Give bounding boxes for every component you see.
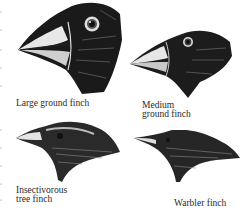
insectivorous-tree-finch-label-line2: tree finch xyxy=(16,194,52,204)
insectivorous-tree-finch-illustration xyxy=(12,118,122,184)
warbler-finch-label: Warbler finch xyxy=(174,198,226,208)
medium-ground-finch-label-line2: ground finch xyxy=(142,109,191,119)
large-ground-finch-label: Large ground finch xyxy=(16,98,89,108)
medium-ground-finch-illustration xyxy=(126,22,236,100)
large-ground-finch-illustration xyxy=(12,0,124,95)
edge-speckle-decoration xyxy=(0,0,3,220)
warbler-finch-illustration xyxy=(132,130,242,190)
